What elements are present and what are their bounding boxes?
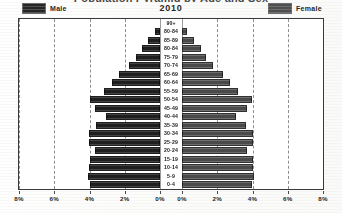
male-half [19, 28, 160, 35]
female-bar [182, 79, 230, 86]
female-bar [182, 37, 194, 44]
female-half [182, 54, 323, 61]
age-group-label: 0-4 [160, 182, 182, 187]
female-half [182, 28, 323, 35]
female-bar [182, 156, 253, 163]
male-half [19, 130, 160, 137]
x-tick [125, 191, 126, 194]
male-half [19, 113, 160, 120]
male-bar [90, 96, 160, 103]
x-axis-label-left-2: 4% [85, 195, 94, 202]
female-half [182, 139, 323, 146]
pyramid-row: 25-29 [19, 139, 323, 146]
x-tick [323, 191, 324, 194]
female-half [182, 173, 323, 180]
female-bar [182, 113, 236, 120]
pyramid-row: 35-39 [19, 122, 323, 129]
age-group-label: 55-59 [160, 89, 182, 94]
pyramid-row: 65-69 [19, 71, 323, 78]
male-bar [88, 173, 160, 180]
male-bar [119, 71, 160, 78]
male-bar [89, 139, 160, 146]
female-bar [182, 130, 253, 137]
female-bar [182, 181, 252, 188]
pyramid-row: 0-4 [19, 181, 323, 188]
age-group-label: 15-19 [160, 157, 182, 162]
female-half [182, 147, 323, 154]
pyramid-row: 60-64 [19, 79, 323, 86]
pyramid-row: 50-54 [19, 96, 323, 103]
x-axis-label-right-1: 2% [213, 195, 222, 202]
x-tick [288, 191, 289, 194]
female-bar [182, 71, 223, 78]
age-group-label: 25-29 [160, 140, 182, 145]
male-half [19, 156, 160, 163]
x-axis-label-right-3: 6% [283, 195, 292, 202]
pyramid-row: 20-24 [19, 147, 323, 154]
female-half [182, 164, 323, 171]
female-bar [182, 122, 246, 129]
age-group-label: 65-69 [160, 72, 182, 77]
female-bar [182, 28, 187, 35]
pyramid-row: 55-59 [19, 88, 323, 95]
female-half [182, 45, 323, 52]
pyramid-row: 80-84 [19, 45, 323, 52]
pyramid-row: 15-19 [19, 156, 323, 163]
pyramid-row: 75-79 [19, 54, 323, 61]
x-tick [160, 191, 161, 194]
male-bar [90, 181, 160, 188]
male-bar [95, 105, 160, 112]
age-group-label: 85-89 [160, 38, 182, 43]
female-half [182, 113, 323, 120]
female-half [182, 122, 323, 129]
age-group-label: 90+ [160, 21, 182, 26]
female-half [182, 20, 323, 27]
x-axis-label-right-2: 4% [248, 195, 257, 202]
male-bar [106, 113, 160, 120]
male-bar [112, 79, 160, 86]
male-half [19, 88, 160, 95]
male-half [19, 45, 160, 52]
female-bar [182, 173, 254, 180]
age-group-label: 45-49 [160, 106, 182, 111]
male-bar [136, 54, 160, 61]
female-bar [182, 105, 247, 112]
male-bar [90, 156, 161, 163]
x-tick [253, 191, 254, 194]
female-half [182, 88, 323, 95]
male-half [19, 105, 160, 112]
age-group-label: 5-9 [160, 174, 182, 179]
x-axis-label-right-4: 8% [318, 195, 327, 202]
female-half [182, 96, 323, 103]
x-axis-label-left-4: 0% [155, 195, 164, 202]
age-group-label: 80-84 [160, 46, 182, 51]
x-axis-label-left-0: 8% [14, 195, 23, 202]
bar-rows: 90+80-8485-8980-8475-7970-7465-6960-6455… [19, 19, 323, 189]
x-axis-label-left-3: 2% [120, 195, 129, 202]
male-half [19, 37, 160, 44]
age-group-label: 10-14 [160, 165, 182, 170]
x-tick [90, 191, 91, 194]
age-group-label: 30-34 [160, 131, 182, 136]
female-half [182, 105, 323, 112]
male-bar [96, 122, 160, 129]
female-bar [182, 139, 253, 146]
male-bar [104, 88, 160, 95]
female-bar [182, 62, 213, 69]
male-bar [89, 164, 160, 171]
female-bar [182, 147, 247, 154]
female-half [182, 37, 323, 44]
pyramid-row: 90+ [19, 20, 323, 27]
female-half [182, 181, 323, 188]
pyramid-row: 45-49 [19, 105, 323, 112]
x-tick [54, 191, 55, 194]
male-half [19, 173, 160, 180]
female-bar [182, 96, 252, 103]
male-half [19, 71, 160, 78]
female-bar [182, 54, 206, 61]
female-half [182, 79, 323, 86]
pyramid-row: 30-34 [19, 130, 323, 137]
female-bar [182, 88, 238, 95]
male-half [19, 139, 160, 146]
age-group-label: 20-24 [160, 148, 182, 153]
